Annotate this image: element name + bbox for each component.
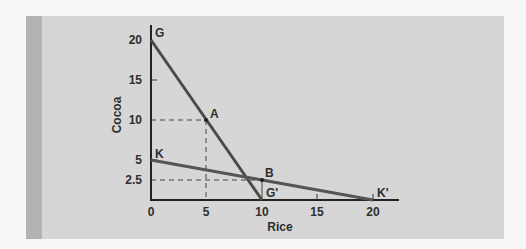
y-tick-15: 15 [129, 73, 143, 87]
x-tick-10: 10 [255, 205, 269, 219]
x-axis-title: Rice [267, 220, 293, 234]
y-tick-2-5: 2.5 [125, 173, 142, 187]
label-a: A [210, 107, 219, 121]
y-tick-20: 20 [129, 33, 143, 47]
label-g: G [155, 26, 164, 40]
point-a [204, 118, 208, 122]
y-tick-5: 5 [135, 153, 142, 167]
x-tick-20: 20 [366, 205, 380, 219]
guide-lines [151, 120, 262, 200]
label-g-prime: G' [266, 186, 278, 200]
point-b [260, 178, 264, 182]
label-k: K [155, 147, 164, 161]
x-tick-5: 5 [203, 205, 210, 219]
ppf-chart: G A K B G' K' 20 15 10 5 2.5 0 5 10 15 2… [0, 0, 526, 249]
label-k-prime: K' [377, 186, 389, 200]
x-tick-15: 15 [310, 205, 324, 219]
x-tick-0: 0 [148, 205, 155, 219]
y-tick-10: 10 [129, 113, 143, 127]
label-b: B [265, 166, 274, 180]
y-axis-title: Cocoa [110, 96, 124, 133]
